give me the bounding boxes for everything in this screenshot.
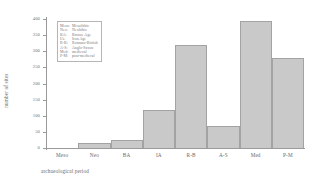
y-tick-label: 200 <box>33 82 40 87</box>
x-tick-label: R-B <box>187 153 196 158</box>
legend-full-name: post-medieval <box>72 54 95 58</box>
bar-slot <box>272 19 304 148</box>
x-tick-label: BA <box>123 153 131 158</box>
y-tick-label: 350 <box>33 33 40 38</box>
y-tick-label: 150 <box>33 98 40 103</box>
bar-slot <box>207 19 239 148</box>
y-tick-label: 400 <box>33 17 40 22</box>
bar <box>111 140 143 148</box>
bar-slot <box>111 19 143 148</box>
x-tick-label: IA <box>156 153 162 158</box>
y-tick-label: 250 <box>33 65 40 70</box>
bar-slot <box>240 19 272 148</box>
x-axis-title: archaeological period <box>41 169 89 174</box>
legend: Meso:MesolithicNeo:NeolithicBA:Bronze Ag… <box>57 21 102 62</box>
x-tick-label: Meso <box>56 153 68 158</box>
bar <box>207 126 239 148</box>
bar <box>143 110 175 148</box>
y-tick-label: 100 <box>33 114 40 119</box>
x-tick-label: P-M <box>283 153 293 158</box>
legend-item: P-M:post-medieval <box>60 54 98 58</box>
y-tick-label: 0 <box>38 146 40 151</box>
y-tick-label: 300 <box>33 49 40 54</box>
legend-abbreviation: P-M: <box>60 54 72 58</box>
bar <box>240 21 272 148</box>
x-axis-line <box>46 148 305 149</box>
y-tick-label: 50 <box>35 130 40 135</box>
bar <box>272 58 304 148</box>
bar-slot <box>175 19 207 148</box>
bar-slot <box>143 19 175 148</box>
x-tick-label: A-S <box>219 153 228 158</box>
y-axis-title: number of sites <box>4 56 9 126</box>
bar-chart: 050100150200250300350400 MesoNeoBAIAR-BA… <box>0 0 319 189</box>
bar <box>78 143 110 148</box>
bar <box>175 45 207 148</box>
x-tick-label: Med <box>251 153 261 158</box>
y-tick-mark <box>43 148 47 149</box>
x-tick-label: Neo <box>90 153 99 158</box>
